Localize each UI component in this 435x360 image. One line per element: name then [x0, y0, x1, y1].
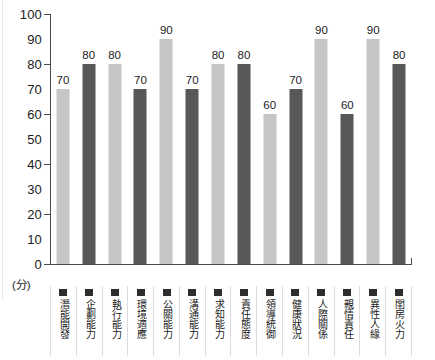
bar: [212, 64, 225, 264]
bar-value-label: 80: [393, 50, 406, 62]
category-label-text: 領導統御: [264, 299, 275, 339]
bar-value-label: 60: [341, 100, 354, 112]
bar-value-label: 90: [367, 25, 380, 37]
category-label-text: 溝通能力: [187, 299, 198, 339]
category-label-cell: 企劃能力: [76, 286, 102, 356]
category-label-text: 執行能力: [110, 299, 121, 339]
bar: [186, 89, 199, 264]
bar-value-label: 60: [263, 100, 276, 112]
bar: [56, 89, 69, 264]
bar-value-label: 80: [108, 50, 121, 62]
y-tick-label: 100: [20, 8, 42, 21]
category-label-text: 企劃能力: [84, 299, 95, 339]
bar-chart: 1009080706050403020100 70808070907080806…: [0, 0, 435, 360]
bar: [134, 89, 147, 264]
bar-slot: 80: [386, 14, 412, 264]
square-marker-icon: [343, 289, 351, 296]
bar-slot: 90: [153, 14, 179, 264]
category-label-cell: 執行能力: [102, 286, 128, 356]
square-marker-icon: [317, 289, 325, 296]
bar: [393, 64, 406, 264]
bar-value-label: 80: [212, 50, 225, 62]
y-axis: 1009080706050403020100: [0, 14, 46, 264]
bar-slot: 60: [334, 14, 360, 264]
category-label-text: 親情責任: [342, 299, 353, 339]
y-tick-label: 90: [27, 33, 42, 46]
bar-slot: 70: [128, 14, 154, 264]
bars-layer: 7080807090708080607090609080: [50, 14, 412, 264]
bar-slot: 70: [283, 14, 309, 264]
category-label-text: 閨房火力: [393, 299, 404, 339]
category-label-cell: 親情責任: [334, 286, 360, 356]
category-label-text: 環境適應: [135, 299, 146, 339]
bar-value-label: 90: [315, 25, 328, 37]
bar-slot: 80: [102, 14, 128, 264]
category-label-cell: 公關能力: [153, 286, 179, 356]
bar: [315, 39, 328, 264]
bar: [341, 114, 354, 264]
square-marker-icon: [111, 289, 119, 296]
square-marker-icon: [395, 289, 403, 296]
bar-value-label: 70: [186, 75, 199, 87]
square-marker-icon: [240, 289, 248, 296]
category-label-cell: 領導統御: [256, 286, 282, 356]
bar-slot: 80: [205, 14, 231, 264]
bar-slot: 70: [50, 14, 76, 264]
y-axis-unit-label: (分): [12, 276, 31, 292]
y-tick-label: 80: [27, 58, 42, 71]
category-label-cell: 溝通能力: [179, 286, 205, 356]
bar-value-label: 90: [160, 25, 173, 37]
bar-value-label: 80: [238, 50, 251, 62]
bar: [289, 89, 302, 264]
y-tick-label: 70: [27, 83, 42, 96]
square-marker-icon: [59, 289, 67, 296]
y-tick-label: 40: [27, 158, 42, 171]
bar: [82, 64, 95, 264]
square-marker-icon: [163, 289, 171, 296]
category-label-table: 潛能開發企劃能力執行能力環境適應公關能力溝通能力求知能力責任態度領導統御健康狀況…: [50, 286, 412, 356]
x-axis-line: [50, 264, 412, 265]
bar: [263, 114, 276, 264]
y-tick-label: 20: [27, 208, 42, 221]
category-label-cell: 閨房火力: [385, 286, 412, 356]
y-tick-mark: [44, 14, 51, 15]
category-label-text: 求知能力: [213, 299, 224, 339]
category-label-cell: 潛能開發: [50, 286, 76, 356]
square-marker-icon: [137, 289, 145, 296]
category-label-text: 人際關係: [316, 299, 327, 339]
bar: [367, 39, 380, 264]
category-label-text: 潛能開發: [58, 299, 69, 339]
category-label-text: 公關能力: [161, 299, 172, 339]
bar-slot: 80: [231, 14, 257, 264]
y-tick-label: 30: [27, 183, 42, 196]
y-tick-label: 10: [27, 233, 42, 246]
bar-value-label: 70: [289, 75, 302, 87]
bar-slot: 90: [309, 14, 335, 264]
plot-area: 1009080706050403020100 70808070907080806…: [0, 14, 435, 276]
category-label-text: 異性人緣: [368, 299, 379, 339]
category-label-cell: 責任態度: [230, 286, 256, 356]
y-tick-mark: [44, 114, 51, 115]
bar-slot: 80: [76, 14, 102, 264]
category-label-text: 責任態度: [239, 299, 250, 339]
category-label-cell: 求知能力: [205, 286, 231, 356]
y-tick-label: 50: [27, 133, 42, 146]
category-label-cell: 人際關係: [308, 286, 334, 356]
square-marker-icon: [85, 289, 93, 296]
bar-value-label: 70: [57, 75, 70, 87]
category-label-cell: 環境適應: [127, 286, 153, 356]
square-marker-icon: [369, 289, 377, 296]
square-marker-icon: [214, 289, 222, 296]
y-tick-label: 60: [27, 108, 42, 121]
bar: [160, 39, 173, 264]
y-tick-mark: [44, 264, 51, 265]
square-marker-icon: [291, 289, 299, 296]
category-label-cell: 健康狀況: [282, 286, 308, 356]
bar-slot: 70: [179, 14, 205, 264]
bar-slot: 60: [257, 14, 283, 264]
bar-slot: 90: [360, 14, 386, 264]
bar-value-label: 70: [134, 75, 147, 87]
square-marker-icon: [188, 289, 196, 296]
bar-value-label: 80: [82, 50, 95, 62]
category-label-cell: 異性人緣: [359, 286, 385, 356]
